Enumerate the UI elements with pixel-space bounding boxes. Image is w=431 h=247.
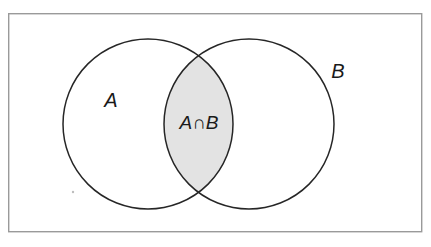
set-b-label: B — [331, 60, 344, 82]
scan-speck-artifact — [72, 191, 74, 193]
venn-diagram-figure: A B A∩B — [0, 0, 431, 247]
set-a-label: A — [103, 89, 117, 111]
intersection-label: A∩B — [178, 112, 218, 133]
venn-diagram-canvas: A B A∩B — [0, 0, 431, 247]
